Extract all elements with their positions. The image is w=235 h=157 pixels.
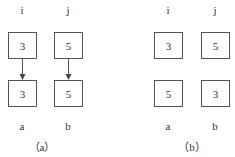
box-a-a: 3 — [8, 80, 37, 107]
arrows — [0, 0, 235, 157]
box-b-b: 3 — [201, 80, 230, 107]
label-j-b: j — [205, 4, 225, 16]
label-b-b: b — [205, 120, 225, 132]
label-i-b: i — [158, 4, 178, 16]
box-b-a: 5 — [54, 80, 83, 107]
box-a-b: 5 — [154, 80, 183, 107]
caption-b: （b） — [172, 138, 212, 154]
label-b-a: b — [58, 120, 78, 132]
box-j-b: 5 — [201, 32, 230, 59]
label-a-a: a — [12, 120, 32, 132]
box-i-b: 3 — [154, 32, 183, 59]
caption-a: （a） — [22, 138, 62, 154]
label-a-b: a — [158, 120, 178, 132]
